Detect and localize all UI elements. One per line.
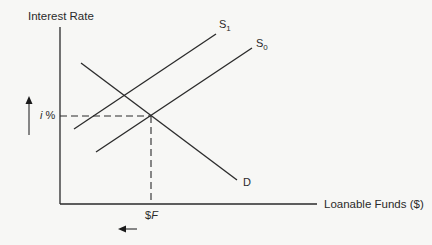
- up-arrow-icon: [26, 96, 33, 104]
- supply-curve-s0: [96, 48, 252, 152]
- supply-curve-s1: [74, 34, 216, 129]
- quantity-variable: F: [151, 209, 158, 221]
- left-arrow-icon: [118, 226, 126, 233]
- rate-unit: %: [42, 109, 55, 121]
- supply-curve-s1-label: S1: [219, 19, 231, 30]
- y-axis-label: Interest Rate: [28, 11, 94, 23]
- demand-curve-label: D: [243, 177, 251, 188]
- equilibrium-rate-label: i %: [40, 110, 55, 121]
- demand-curve: [81, 63, 237, 180]
- x-axis-label: Loanable Funds ($): [324, 199, 424, 211]
- equilibrium-quantity-label: $F: [145, 210, 158, 221]
- supply-curve-s0-label: S0: [256, 38, 268, 49]
